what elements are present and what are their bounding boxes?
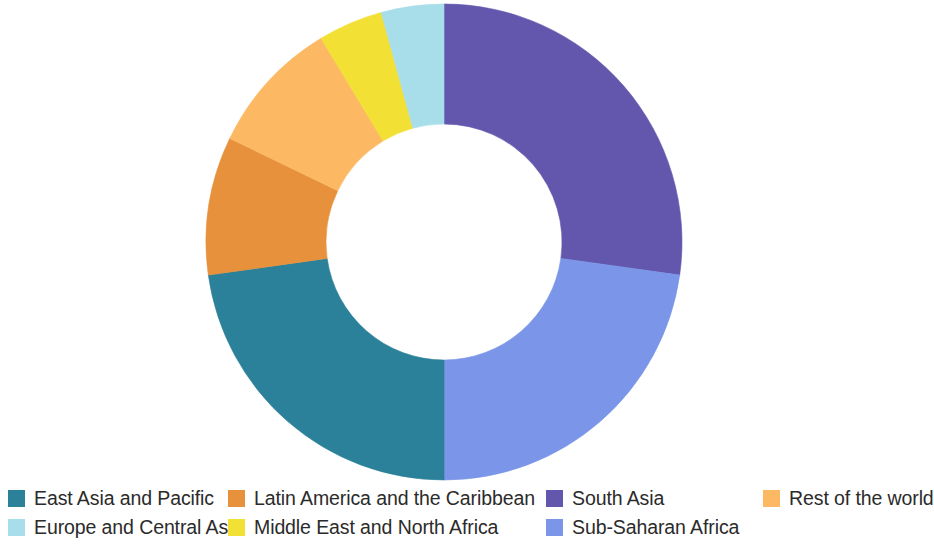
legend-row-2: Europe and Central Asia Middle East and … [0, 513, 880, 543]
donut-slice-sub-saharan-africa[interactable] [444, 258, 680, 480]
legend-label-east-asia-and-pacific: East Asia and Pacific [34, 487, 214, 509]
donut-chart-svg [0, 0, 880, 484]
legend-swatch-sub-saharan-africa [546, 519, 563, 536]
legend-item-rest-of-the-world[interactable]: Rest of the world [763, 484, 934, 512]
legend-label-sub-saharan-africa: Sub-Saharan Africa [572, 516, 739, 538]
donut-slice-south-asia[interactable] [444, 4, 682, 275]
legend-item-latin-america-and-the-caribbean[interactable]: Latin America and the Caribbean [228, 484, 535, 512]
chart-plot-area [0, 0, 880, 484]
legend-label-latin-america-and-the-caribbean: Latin America and the Caribbean [254, 487, 535, 509]
legend-swatch-east-asia-and-pacific [8, 490, 25, 507]
legend-item-middle-east-and-north-africa[interactable]: Middle East and North Africa [228, 513, 498, 541]
legend-swatch-middle-east-and-north-africa [228, 519, 245, 536]
donut-slice-east-asia-and-pacific[interactable] [208, 258, 444, 480]
legend-label-middle-east-and-north-africa: Middle East and North Africa [254, 516, 498, 538]
legend-item-south-asia[interactable]: South Asia [546, 484, 664, 512]
legend-swatch-europe-and-central-asia [8, 519, 25, 536]
legend-swatch-latin-america-and-the-caribbean [228, 490, 245, 507]
legend-swatch-south-asia [546, 490, 563, 507]
legend-item-east-asia-and-pacific[interactable]: East Asia and Pacific [8, 484, 214, 512]
legend-item-sub-saharan-africa[interactable]: Sub-Saharan Africa [546, 513, 739, 541]
legend-label-europe-and-central-asia: Europe and Central Asia [34, 516, 243, 538]
legend-row-1: East Asia and Pacific Latin America and … [0, 484, 880, 514]
legend-label-rest-of-the-world: Rest of the world [789, 487, 934, 509]
legend-swatch-rest-of-the-world [763, 490, 780, 507]
chart-legend: East Asia and Pacific Latin America and … [0, 482, 880, 558]
legend-item-europe-and-central-asia[interactable]: Europe and Central Asia [8, 513, 243, 541]
legend-label-south-asia: South Asia [572, 487, 664, 509]
